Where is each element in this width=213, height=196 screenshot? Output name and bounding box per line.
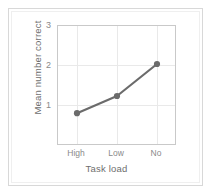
x-axis-title: Task load [0,163,213,174]
data-point-low [114,93,120,99]
xtick-label-low: Low [94,148,138,158]
data-point-high [74,110,80,116]
data-point-no [154,61,160,67]
data-series-line [58,26,177,146]
xtick-label-no: No [134,148,178,158]
plot-area [57,25,176,145]
xtick-label-high: High [54,148,98,158]
chart-figure: 3 2 1 High Low No Task load Mean number … [0,0,213,196]
y-axis-title: Mean number correct [32,8,43,128]
